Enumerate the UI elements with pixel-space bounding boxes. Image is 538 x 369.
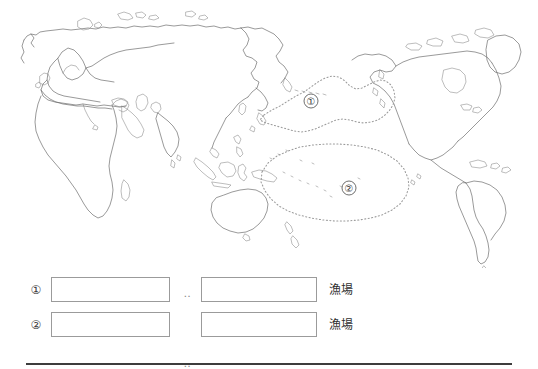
answer-row: ② ‥ 漁場 — [0, 310, 538, 339]
zone-1-marker-label: ① — [307, 96, 316, 107]
fishing-zone-2: ② — [261, 144, 409, 221]
fishing-zone-1: ① — [260, 76, 395, 132]
answer-row-2-suffix: 漁場 — [329, 319, 353, 331]
zone-2-marker-label: ② — [345, 183, 354, 194]
answer-row-2-input-a[interactable] — [51, 312, 170, 337]
bottom-rule — [26, 363, 512, 365]
world-map: ① ② — [0, 0, 538, 268]
answer-row-1-input-a[interactable] — [51, 277, 170, 302]
australasia-outline — [194, 118, 360, 248]
answer-block: ① ‥ 漁場 ② ‥ 漁場 — [0, 270, 538, 348]
answer-row-1-separator: ‥ — [176, 288, 200, 299]
answer-row-2-number: ② — [25, 319, 47, 331]
eurasia-outline — [21, 11, 326, 132]
world-map-svg: ① ② — [0, 0, 538, 268]
answer-row-2-input-b[interactable] — [201, 312, 317, 337]
americas-outline — [352, 28, 521, 268]
africa-outline — [35, 90, 181, 218]
answer-row-1-input-b[interactable] — [201, 277, 317, 302]
answer-row: ① ‥ 漁場 — [0, 275, 538, 304]
answer-row-1-suffix: 漁場 — [329, 284, 353, 296]
answer-row-1-number: ① — [25, 284, 47, 296]
